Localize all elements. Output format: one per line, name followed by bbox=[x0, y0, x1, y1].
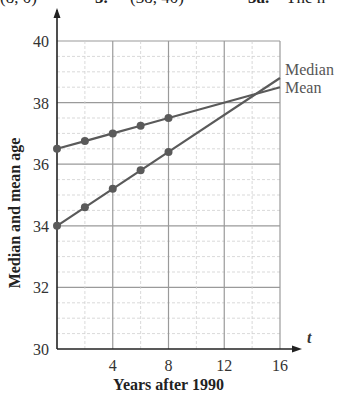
legend-label-median: Median bbox=[285, 61, 334, 78]
series-lines bbox=[53, 78, 280, 230]
x-tick-label: 12 bbox=[216, 357, 232, 374]
legend-label-mean: Mean bbox=[285, 79, 321, 96]
x-tick-label: 4 bbox=[109, 357, 117, 374]
y-tick-label: 34 bbox=[33, 218, 49, 235]
y-tick-label: 38 bbox=[33, 95, 49, 112]
y-tick-label: 30 bbox=[33, 341, 49, 358]
y-axis-arrow-icon bbox=[54, 8, 61, 18]
data-point bbox=[81, 137, 89, 145]
data-point bbox=[165, 114, 173, 122]
line-chart: 303234363840481216tYears after 1990Media… bbox=[0, 0, 344, 394]
data-point bbox=[109, 129, 117, 137]
data-point bbox=[109, 185, 117, 193]
y-tick-label: 40 bbox=[33, 33, 49, 50]
data-point bbox=[53, 222, 61, 230]
y-tick-label: 36 bbox=[33, 156, 49, 173]
y-axis-title: Median and mean age bbox=[6, 138, 24, 289]
x-axis-arrow-icon bbox=[292, 346, 302, 353]
x-axis-title: Years after 1990 bbox=[113, 376, 224, 393]
x-axis-variable: t bbox=[307, 329, 312, 346]
y-tick-label: 32 bbox=[33, 279, 49, 296]
x-tick-label: 16 bbox=[272, 357, 288, 374]
axes bbox=[54, 8, 303, 353]
data-point bbox=[137, 166, 145, 174]
data-point bbox=[137, 122, 145, 130]
data-point bbox=[81, 203, 89, 211]
grid bbox=[57, 41, 280, 349]
x-tick-label: 8 bbox=[165, 357, 173, 374]
data-point bbox=[165, 148, 173, 156]
data-point bbox=[53, 145, 61, 153]
